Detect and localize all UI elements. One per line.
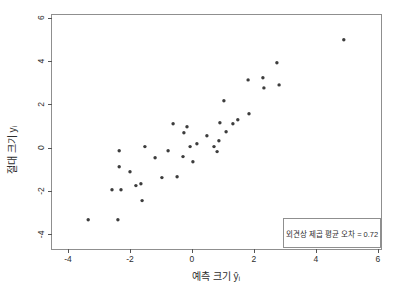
y-tick-label: 0 bbox=[37, 145, 47, 150]
x-tick-label: 6 bbox=[376, 254, 381, 264]
annotation-box: 외견상 제곱 평균 오차 = 0.72 bbox=[283, 218, 381, 248]
data-point bbox=[212, 145, 215, 148]
data-point bbox=[87, 218, 90, 221]
data-point bbox=[181, 155, 184, 158]
data-point bbox=[118, 149, 121, 152]
y-tick-label: 2 bbox=[37, 102, 47, 107]
data-point bbox=[217, 139, 220, 142]
data-point bbox=[247, 112, 250, 115]
data-point bbox=[188, 145, 191, 148]
data-point bbox=[231, 122, 234, 125]
data-point bbox=[215, 150, 218, 153]
x-tick-label: 0 bbox=[190, 254, 195, 264]
y-axis-label: 절대 크기 yᵢ bbox=[4, 100, 18, 200]
data-point bbox=[128, 170, 131, 173]
data-point bbox=[261, 76, 264, 79]
data-point bbox=[191, 160, 194, 163]
data-point bbox=[166, 149, 169, 152]
y-tick-label: 4 bbox=[37, 58, 47, 63]
y-tick-label: 6 bbox=[37, 15, 47, 20]
data-point bbox=[182, 131, 185, 134]
data-point bbox=[119, 188, 122, 191]
y-tick-label: -4 bbox=[37, 230, 47, 238]
data-point bbox=[236, 118, 239, 121]
data-point bbox=[246, 78, 249, 81]
x-axis-label: 예측 크기 ŷᵢ bbox=[51, 268, 381, 283]
data-point bbox=[118, 165, 121, 168]
data-point bbox=[110, 188, 113, 191]
data-point bbox=[195, 142, 198, 145]
data-point bbox=[134, 184, 137, 187]
data-point bbox=[153, 156, 156, 159]
annotation-text: 외견상 제곱 평균 오차 = 0.72 bbox=[286, 228, 378, 239]
data-point bbox=[116, 218, 119, 221]
data-point bbox=[139, 182, 142, 185]
y-tick-label: -2 bbox=[37, 187, 47, 195]
x-tick-label: 4 bbox=[314, 254, 319, 264]
plot-border bbox=[52, 15, 382, 250]
data-point bbox=[262, 86, 265, 89]
scatter-plot-figure: -4-20246-4-20246 절대 크기 yᵢ 예측 크기 ŷᵢ 외견상 제… bbox=[0, 0, 393, 291]
data-point bbox=[143, 145, 146, 148]
data-point bbox=[222, 99, 225, 102]
data-point bbox=[160, 176, 163, 179]
x-tick-label: -4 bbox=[64, 254, 72, 264]
data-point bbox=[185, 125, 188, 128]
x-tick-label: -2 bbox=[126, 254, 134, 264]
data-point bbox=[275, 61, 278, 64]
x-tick-label: 2 bbox=[252, 254, 257, 264]
data-point bbox=[342, 38, 345, 41]
data-point bbox=[277, 83, 280, 86]
data-point bbox=[171, 122, 174, 125]
data-point bbox=[140, 199, 143, 202]
data-point bbox=[205, 134, 208, 137]
data-point bbox=[175, 175, 178, 178]
data-point bbox=[218, 121, 221, 124]
data-point bbox=[224, 130, 227, 133]
